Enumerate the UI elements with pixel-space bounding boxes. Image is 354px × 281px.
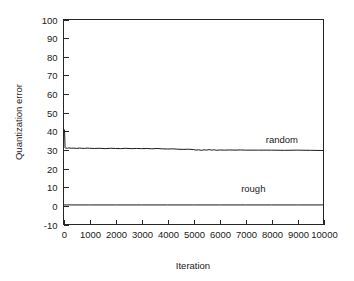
y-tick-label-40: 40 — [47, 126, 58, 137]
x-axis-title: Iteration — [176, 260, 210, 271]
y-tick-label-90: 90 — [47, 33, 58, 44]
annotation-rough: rough — [241, 183, 265, 194]
plot-frame — [64, 20, 324, 225]
x-tick-label-10000: 10000 — [311, 229, 337, 240]
x-tick-label-5000: 5000 — [184, 229, 205, 240]
y-tick-label-60: 60 — [47, 89, 58, 100]
x-axis-tick-marks — [65, 220, 325, 225]
x-tick-label-2000: 2000 — [106, 229, 127, 240]
y-axis-tick-labels: 1009080706050403020100-10 — [42, 15, 58, 231]
y-tick-label-80: 80 — [47, 52, 58, 63]
chart-figure: 1009080706050403020100-10 01000200030004… — [0, 0, 354, 281]
y-tick-label-30: 30 — [47, 145, 58, 156]
x-tick-label-9000: 9000 — [288, 229, 309, 240]
x-tick-label-6000: 6000 — [210, 229, 231, 240]
x-tick-label-1000: 1000 — [80, 229, 101, 240]
series-annotations: randomrough — [241, 134, 298, 193]
x-tick-label-3000: 3000 — [132, 229, 153, 240]
y-tick-label-0: 0 — [52, 201, 57, 212]
y-tick-label-20: 20 — [47, 164, 58, 175]
y-tick-label--10: -10 — [44, 220, 58, 231]
annotation-random: random — [266, 134, 298, 145]
y-tick-label-100: 100 — [42, 15, 58, 26]
x-tick-label-8000: 8000 — [262, 229, 283, 240]
y-tick-label-10: 10 — [47, 182, 58, 193]
x-tick-label-4000: 4000 — [158, 229, 179, 240]
x-tick-label-7000: 7000 — [236, 229, 257, 240]
y-axis-title: Quantization error — [13, 84, 24, 160]
x-tick-label-0: 0 — [62, 229, 67, 240]
y-tick-label-70: 70 — [47, 70, 58, 81]
y-tick-label-50: 50 — [47, 108, 58, 119]
y-axis-tick-marks — [64, 21, 69, 226]
x-axis-tick-labels: 0100020003000400050006000700080009000100… — [62, 229, 338, 240]
quantization-error-line-chart: 1009080706050403020100-10 01000200030004… — [0, 0, 354, 281]
